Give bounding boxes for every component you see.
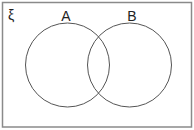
venn-diagram: ξ A B — [0, 0, 194, 130]
universal-set-frame — [3, 3, 192, 128]
set-b-label: B — [127, 8, 136, 24]
set-a-label: A — [61, 8, 71, 24]
universal-set-symbol: ξ — [8, 7, 14, 23]
